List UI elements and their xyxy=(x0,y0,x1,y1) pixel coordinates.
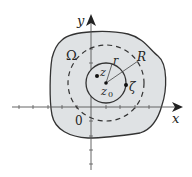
center-subscript: 0 xyxy=(108,90,113,99)
origin-label: 0 xyxy=(75,114,83,128)
center-label: z xyxy=(100,85,107,98)
radius-r-label: r xyxy=(113,54,119,67)
x-axis-label: x xyxy=(172,111,180,126)
point-z-label: z xyxy=(99,66,106,79)
point-zeta xyxy=(124,83,128,87)
point-z xyxy=(95,74,99,78)
y-axis-label: y xyxy=(76,13,85,28)
region-label: Ω xyxy=(66,48,77,63)
radius-R-label: R xyxy=(136,50,146,64)
diagram-canvas: y x 0 Ω z ζ r R z 0 xyxy=(0,0,192,177)
